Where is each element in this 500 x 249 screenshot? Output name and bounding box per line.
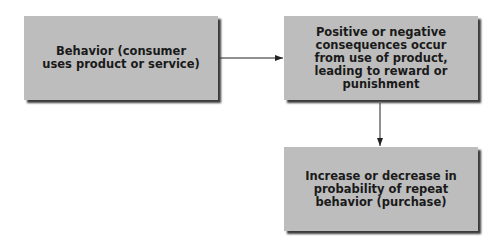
node-consequences-label: Positive or negative consequences occur … (314, 26, 447, 91)
node-behavior-label: Behavior (consumer uses product or servi… (42, 45, 199, 71)
node-behavior: Behavior (consumer uses product or servi… (24, 16, 218, 100)
node-probability: Increase or decrease in probability of r… (284, 147, 478, 231)
node-probability-label: Increase or decrease in probability of r… (305, 170, 457, 209)
node-consequences: Positive or negative consequences occur … (284, 16, 478, 100)
